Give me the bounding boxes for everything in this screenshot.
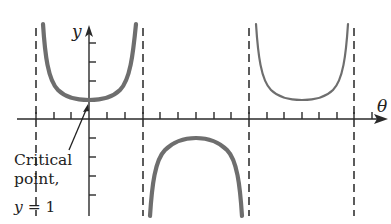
x-axis-label: θ bbox=[377, 96, 387, 116]
branch-2-curve bbox=[150, 138, 242, 216]
annotation-line-2: point, bbox=[14, 170, 59, 188]
branch-3-curve bbox=[256, 24, 348, 100]
critical-point-annotation: Critical point, y = 1 bbox=[13, 104, 89, 216]
annotation-value: = 1 bbox=[23, 198, 56, 216]
secant-graph: θ y Critical point, y = 1 bbox=[0, 0, 391, 224]
annotation-line-3: y = 1 bbox=[13, 198, 55, 216]
annotation-arrow-icon bbox=[83, 104, 89, 112]
y-axis-label: y bbox=[71, 21, 82, 41]
annotation-line-1: Critical bbox=[14, 151, 72, 169]
x-ticks bbox=[36, 112, 372, 119]
asymptotes bbox=[36, 28, 354, 216]
annotation-var: y bbox=[13, 198, 23, 216]
